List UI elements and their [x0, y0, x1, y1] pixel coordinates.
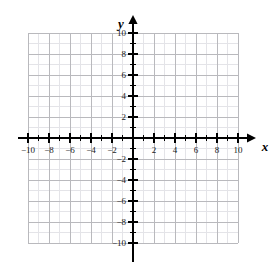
y-tick-label: −6	[116, 196, 126, 206]
y-tick-label: −8	[116, 217, 126, 227]
y-axis-arrowhead	[128, 15, 137, 24]
y-tick-label: 2	[122, 112, 127, 122]
x-tick-label: −4	[86, 145, 96, 155]
y-tick-label: 6	[122, 70, 127, 80]
x-tick-label: −10	[21, 145, 36, 155]
y-tick-label: −2	[116, 154, 126, 164]
y-tick-label: 4	[122, 91, 127, 101]
x-tick-label: −2	[107, 145, 117, 155]
y-tick-label: −4	[116, 175, 126, 185]
x-tick-label: −6	[65, 145, 75, 155]
axis-lines	[18, 15, 256, 262]
x-tick-label: 8	[215, 145, 220, 155]
x-tick-label: 4	[173, 145, 178, 155]
coordinate-plane: −10−8−6−4−2246810108642−2−4−6−8−10 xy	[0, 0, 272, 264]
y-tick-label: −10	[112, 238, 127, 248]
y-axis-name: y	[116, 16, 124, 31]
coordinate-grid-svg: −10−8−6−4−2246810108642−2−4−6−8−10 xy	[0, 0, 272, 264]
x-axis-name: x	[261, 139, 269, 154]
x-tick-label: 6	[194, 145, 199, 155]
x-tick-label: 10	[234, 145, 244, 155]
x-tick-label: 2	[152, 145, 157, 155]
x-axis-arrowhead	[247, 133, 256, 142]
x-tick-label: −8	[44, 145, 54, 155]
y-tick-label: 8	[122, 49, 127, 59]
